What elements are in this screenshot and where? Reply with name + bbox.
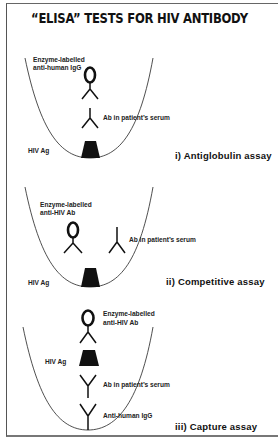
assay-label-competitive: ii) Competitive assay — [166, 276, 265, 287]
label-ab-serum: Ab in patient’s serum — [103, 113, 170, 122]
patient-antibody-icon — [82, 108, 98, 128]
hiv-antigen-icon — [79, 350, 99, 366]
label-ab-serum: Ab in patient’s serum — [129, 235, 196, 244]
label-hiv-ag: HIV Ag — [45, 357, 66, 366]
label-anti-human-igg: Anti-human IgG — [103, 411, 152, 420]
label-enzyme-line2: anti-HIV Ab — [40, 208, 75, 217]
label-enzyme-line2: anti-human IgG — [33, 63, 81, 72]
label-enzyme-line2: anti-HIV Ab — [103, 318, 138, 327]
hiv-antigen-icon — [81, 141, 100, 158]
label-hiv-ag: HIV Ag — [28, 146, 49, 155]
label-hiv-ag: HIV Ag — [28, 278, 49, 287]
label-enzyme-line1: Enzyme-labelled — [103, 309, 155, 318]
anti-human-igg-icon — [80, 404, 96, 430]
enzyme-labelled-antibody-icon — [80, 311, 96, 344]
patient-antibody-icon — [80, 375, 96, 398]
label-ab-serum: Ab in patient’s serum — [103, 380, 170, 389]
assay-label-capture: iii) Capture assay — [175, 421, 257, 432]
enzyme-labelled-antibody-icon — [82, 68, 98, 100]
patient-antibody-icon — [109, 227, 125, 253]
enzyme-labelled-antibody-icon — [64, 223, 82, 254]
panel-antiglobulin — [25, 58, 153, 158]
assay-label-antiglobulin: i) Antiglobulin assay — [175, 150, 272, 161]
hiv-antigen-icon — [81, 268, 100, 287]
